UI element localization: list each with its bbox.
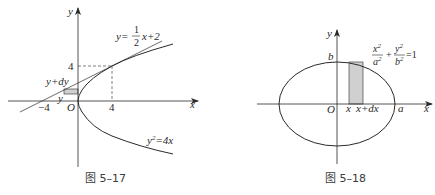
ellipse-eq-t1-den: a2 bbox=[373, 55, 382, 67]
curve-eq-rhs: =4x bbox=[155, 134, 173, 146]
strip-label-lower: y bbox=[57, 92, 63, 104]
x-axis-label: x bbox=[189, 98, 195, 110]
strip-label-left: x bbox=[345, 102, 351, 114]
ellipse-eq-t2-num: y2 bbox=[394, 42, 403, 54]
tick-label-y-4: 4 bbox=[68, 60, 74, 72]
line-equation: y= 1 2 x+2 bbox=[115, 24, 160, 48]
line-eq-den: 2 bbox=[134, 37, 139, 48]
integration-strip bbox=[64, 89, 78, 94]
ellipse-equation: x2 a2 + y2 b2 =1 bbox=[372, 42, 417, 67]
figure-caption: 图 5–17 bbox=[85, 172, 126, 185]
origin-label: O bbox=[67, 101, 75, 113]
figure-5-18: y x O b a x x+dx x2 a2 + y2 b2 =1 图 5–18 bbox=[257, 27, 432, 185]
t1-den-exp: 2 bbox=[378, 55, 382, 63]
tick-label-x-neg4: −4 bbox=[38, 101, 50, 113]
line-eq-num: 1 bbox=[134, 24, 139, 35]
ellipse-eq-t1-num: x2 bbox=[372, 42, 381, 54]
t2-num-exp: 2 bbox=[399, 42, 403, 50]
figures-canvas: y x O −4 4 4 y+dy y y= 1 2 x+2 y2=4x 图 5… bbox=[0, 0, 435, 195]
ellipse-eq-t2-den: b2 bbox=[395, 55, 404, 67]
line-eq-lhs: y= bbox=[115, 30, 128, 42]
integration-strip bbox=[349, 62, 363, 104]
y-axis-label: y bbox=[326, 27, 332, 39]
y-axis-label: y bbox=[67, 5, 73, 17]
line-eq-rhs: x+2 bbox=[141, 30, 160, 42]
strip-label-right: x+dx bbox=[355, 102, 379, 114]
figure-caption: 图 5–18 bbox=[325, 172, 366, 185]
t1-num-exp: 2 bbox=[377, 42, 381, 50]
tick-label-x-4: 4 bbox=[109, 101, 115, 113]
tick-label-b: b bbox=[328, 50, 334, 62]
ellipse-eq-plus: + bbox=[386, 49, 392, 60]
figure-5-17: y x O −4 4 4 y+dy y y= 1 2 x+2 y2=4x 图 5… bbox=[8, 5, 198, 185]
origin-label: O bbox=[327, 103, 335, 115]
t2-den-exp: 2 bbox=[400, 55, 404, 63]
curve-eq-text: y2=4x bbox=[146, 134, 173, 146]
ellipse-eq-rhs: =1 bbox=[406, 49, 417, 60]
tick-label-a: a bbox=[398, 102, 404, 114]
x-axis-label: x bbox=[423, 102, 429, 114]
curve-equation: y2=4x bbox=[146, 134, 173, 146]
strip-label-upper: y+dy bbox=[45, 75, 69, 87]
